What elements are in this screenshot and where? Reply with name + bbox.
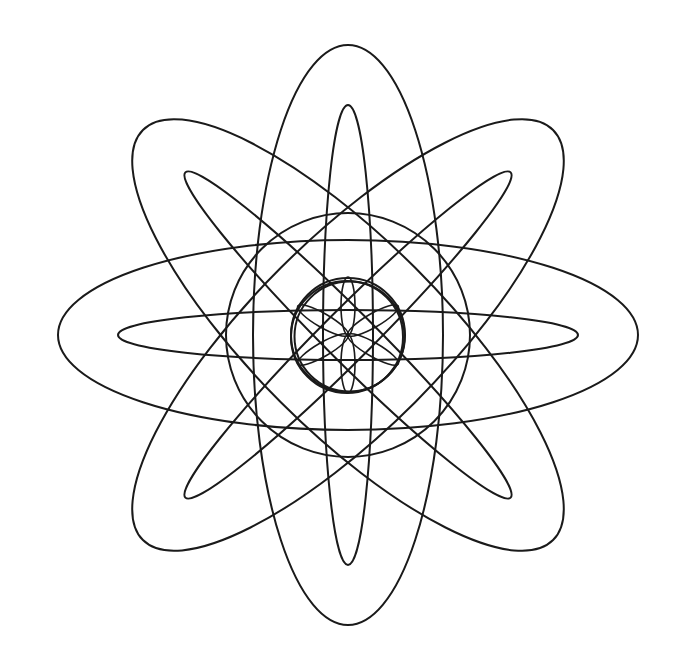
rosette-diagram (0, 0, 698, 652)
